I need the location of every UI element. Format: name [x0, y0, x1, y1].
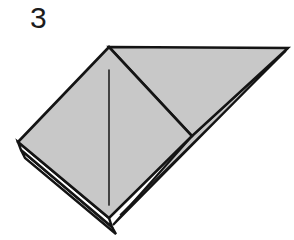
origami-figure: 3	[0, 0, 294, 240]
origami-diagram	[0, 0, 294, 240]
